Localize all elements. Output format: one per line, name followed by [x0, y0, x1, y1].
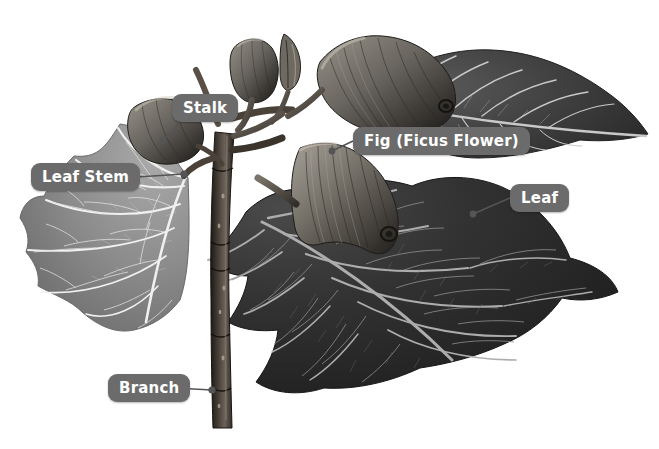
label-leaf[interactable]: Leaf — [510, 184, 569, 212]
label-branch-text: Branch — [119, 379, 179, 397]
bud — [280, 34, 301, 90]
top-fig — [317, 36, 455, 136]
label-stalk[interactable]: Stalk — [172, 94, 238, 122]
label-branch[interactable]: Branch — [108, 374, 190, 402]
label-fig[interactable]: Fig (Ficus Flower) — [353, 127, 530, 155]
label-fig-text: Fig (Ficus Flower) — [364, 132, 519, 150]
illustration-canvas: Stalk Fig (Ficus Flower) Leaf Stem Leaf … — [0, 0, 659, 449]
fig-plant-illustration — [0, 0, 659, 449]
label-leaf-stem-text: Leaf Stem — [42, 168, 129, 186]
main-fig — [292, 143, 399, 254]
label-stalk-text: Stalk — [183, 99, 227, 117]
label-leaf-text: Leaf — [521, 189, 558, 207]
label-leaf-stem[interactable]: Leaf Stem — [31, 163, 140, 191]
small-fig — [230, 39, 278, 103]
